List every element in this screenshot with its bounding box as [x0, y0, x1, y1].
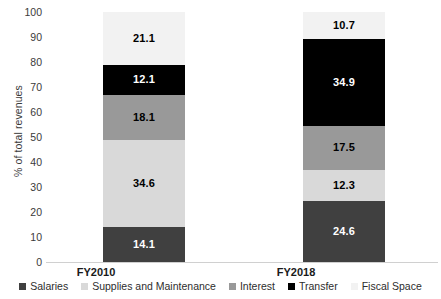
category-label-fy2010: FY2010: [26, 266, 166, 278]
bar-segment-value: 14.1: [133, 239, 155, 250]
legend-item[interactable]: Salaries: [19, 281, 68, 292]
bar-segment: 14.1: [103, 227, 185, 262]
legend-label: Interest: [240, 281, 275, 292]
bar-segment: 21.1: [103, 12, 185, 65]
y-axis-tick: 10: [14, 232, 42, 243]
category-label-fy2018: FY2018: [226, 266, 366, 278]
legend-label: Transfer: [299, 281, 338, 292]
bar-segment: 17.5: [303, 126, 385, 170]
legend-swatch-icon: [81, 283, 88, 290]
y-axis-tick-labels: 1009080706050403020100: [14, 12, 42, 262]
plot-area: 14.134.618.112.121.1 24.612.317.534.910.…: [48, 12, 436, 262]
bar-segment-value: 12.1: [133, 74, 155, 85]
x-axis-line: [46, 262, 438, 263]
stacked-bar-chart: % of total revenues 10090807060504030201…: [0, 0, 441, 299]
bar-group-fy2018: 24.612.317.534.910.7: [303, 12, 385, 262]
bar-segment-value: 34.6: [133, 178, 155, 189]
bar-segment: 10.7: [303, 12, 385, 39]
bar-segment-value: 10.7: [333, 20, 355, 31]
legend-label: Salaries: [30, 281, 68, 292]
y-axis-tick: 60: [14, 107, 42, 118]
y-axis-tick: 40: [14, 157, 42, 168]
legend-swatch-icon: [19, 283, 26, 290]
legend-swatch-icon: [288, 283, 295, 290]
legend-item[interactable]: Interest: [229, 281, 275, 292]
bar-segment: 24.6: [303, 201, 385, 263]
bar-group-fy2010: 14.134.618.112.121.1: [103, 12, 185, 262]
y-axis-tick: 20: [14, 207, 42, 218]
legend-label: Supplies and Maintenance: [92, 281, 216, 292]
legend-swatch-icon: [229, 283, 236, 290]
y-axis-tick: 90: [14, 32, 42, 43]
legend-item[interactable]: Supplies and Maintenance: [81, 281, 216, 292]
y-axis-tick: 100: [14, 7, 42, 18]
legend-item[interactable]: Fiscal Space: [351, 281, 422, 292]
legend-item[interactable]: Transfer: [288, 281, 338, 292]
bar-segment: 34.9: [303, 39, 385, 126]
bar-segment-value: 12.3: [333, 180, 355, 191]
bar-segment: 12.1: [103, 65, 185, 95]
y-axis-tick: 70: [14, 82, 42, 93]
bar-segment-value: 17.5: [333, 142, 355, 153]
bar-segment: 12.3: [303, 170, 385, 201]
y-axis-tick: 50: [14, 132, 42, 143]
y-axis-tick: 80: [14, 57, 42, 68]
chart-legend: SalariesSupplies and MaintenanceInterest…: [0, 281, 441, 292]
legend-swatch-icon: [351, 283, 358, 290]
bar-segment-value: 34.9: [333, 77, 355, 88]
bar-stack: 24.612.317.534.910.7: [303, 12, 385, 262]
bar-segment-value: 18.1: [133, 112, 155, 123]
bar-segment-value: 21.1: [133, 33, 155, 44]
bar-segment: 34.6: [103, 140, 185, 227]
bar-segment-value: 24.6: [333, 226, 355, 237]
bar-segment: 18.1: [103, 95, 185, 140]
bar-stack: 14.134.618.112.121.1: [103, 12, 185, 262]
legend-label: Fiscal Space: [362, 281, 422, 292]
y-axis-tick: 30: [14, 182, 42, 193]
